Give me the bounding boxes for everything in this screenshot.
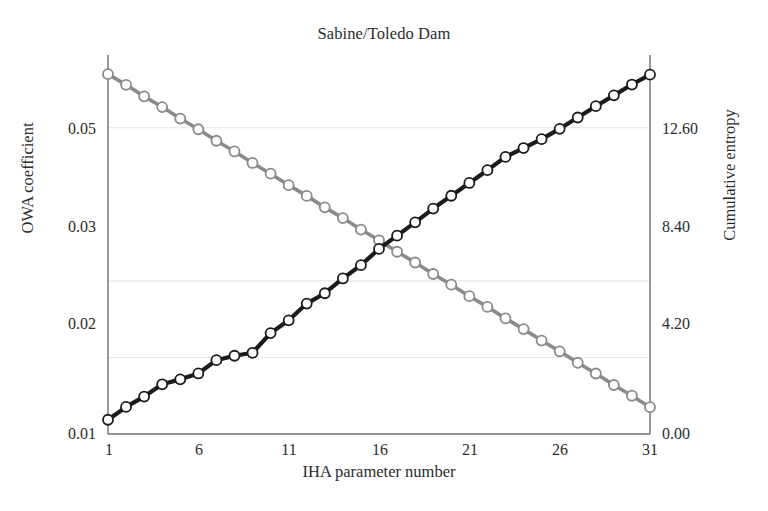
data-point-marker: [482, 302, 492, 312]
data-point-marker: [591, 369, 601, 379]
data-point-marker: [392, 247, 402, 257]
data-point-marker: [627, 391, 637, 401]
data-point-marker: [266, 328, 276, 338]
data-point-marker: [591, 101, 601, 111]
data-point-marker: [645, 70, 655, 80]
data-point-marker: [500, 313, 510, 323]
data-point-marker: [139, 91, 149, 101]
data-point-marker: [139, 392, 149, 402]
data-series-layer: [103, 69, 655, 425]
chart-title: Sabine/Toledo Dam: [0, 24, 768, 44]
data-point-marker: [121, 402, 131, 412]
data-point-marker: [482, 165, 492, 175]
y-axis-label-right: Cumulative entropy: [720, 65, 740, 285]
data-point-marker: [428, 269, 438, 279]
x-tick-0: 1: [79, 441, 139, 459]
x-axis-label: IHA parameter number: [108, 462, 650, 482]
data-point-marker: [374, 244, 384, 254]
data-point-marker: [410, 257, 420, 267]
data-point-marker: [573, 113, 583, 123]
x-tick-3: 16: [350, 441, 410, 459]
x-tick-1: 6: [169, 441, 229, 459]
data-point-marker: [157, 102, 167, 112]
data-point-marker: [103, 415, 113, 425]
data-point-marker: [266, 169, 276, 179]
data-point-marker: [338, 213, 348, 223]
data-point-marker: [211, 136, 221, 146]
data-point-marker: [392, 231, 402, 241]
data-point-marker: [464, 291, 474, 301]
data-point-marker: [537, 336, 547, 346]
data-point-marker: [229, 146, 239, 156]
data-point-marker: [500, 152, 510, 162]
y-tick-left-0: 0.05: [16, 120, 96, 138]
data-point-marker: [609, 380, 619, 390]
data-point-marker: [645, 402, 655, 412]
y-tick-right-2: 4.20: [662, 315, 742, 333]
data-point-marker: [175, 374, 185, 384]
data-point-marker: [175, 114, 185, 124]
data-point-marker: [555, 124, 565, 134]
data-point-marker: [211, 355, 221, 365]
data-point-marker: [573, 358, 583, 368]
data-point-marker: [609, 90, 619, 100]
data-point-marker: [302, 299, 312, 309]
y-tick-left-2: 0.02: [16, 315, 96, 333]
data-point-marker: [464, 178, 474, 188]
data-point-marker: [356, 225, 366, 235]
data-point-marker: [193, 124, 203, 134]
data-point-marker: [320, 202, 330, 212]
data-point-marker: [555, 346, 565, 356]
data-point-marker: [103, 69, 113, 79]
x-tick-2: 11: [259, 441, 319, 459]
y-tick-left-1: 0.03: [16, 218, 96, 236]
data-point-marker: [519, 143, 529, 153]
data-point-marker: [229, 351, 239, 361]
y-tick-right-1: 8.40: [662, 218, 742, 236]
x-tick-5: 26: [530, 441, 590, 459]
plot-area: [0, 0, 768, 511]
data-point-marker: [320, 288, 330, 298]
data-point-marker: [157, 379, 167, 389]
data-point-marker: [519, 324, 529, 334]
data-point-marker: [537, 134, 547, 144]
data-point-marker: [627, 80, 637, 90]
data-point-marker: [338, 273, 348, 283]
y-axis-label-left: OWA coefficient: [18, 78, 38, 278]
data-point-marker: [284, 180, 294, 190]
data-point-marker: [446, 280, 456, 290]
y-tick-right-0: 12.60: [662, 120, 742, 138]
data-point-marker: [410, 217, 420, 227]
x-tick-6: 31: [620, 441, 680, 459]
data-point-marker: [284, 315, 294, 325]
data-point-marker: [302, 191, 312, 201]
chart-figure: Sabine/Toledo Dam OWA coefficient Cumula…: [0, 0, 768, 511]
data-point-marker: [446, 191, 456, 201]
data-point-marker: [248, 158, 258, 168]
x-tick-4: 21: [440, 441, 500, 459]
data-point-marker: [428, 204, 438, 214]
data-point-marker: [121, 80, 131, 90]
data-point-marker: [248, 348, 258, 358]
data-point-marker: [356, 260, 366, 270]
data-point-marker: [193, 368, 203, 378]
